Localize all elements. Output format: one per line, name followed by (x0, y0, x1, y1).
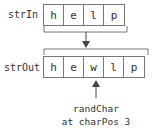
strout-cell-4: p (124, 57, 144, 77)
strout-cell-1: e (64, 57, 84, 77)
strout-cell-0: h (44, 57, 64, 77)
down-arrow-icon (82, 41, 90, 48)
input-bracket (44, 26, 127, 32)
output-bracket (44, 49, 148, 55)
strout-array: h e w l p (43, 56, 145, 78)
up-arrow-icon (92, 80, 100, 87)
strout-cell-2: w (84, 57, 104, 77)
annotation-line-1: randChar (66, 103, 126, 115)
strout-cell-3: l (104, 57, 124, 77)
strout-label: strOut (4, 62, 40, 74)
annotation-line-2: at charPos 3 (58, 116, 134, 128)
